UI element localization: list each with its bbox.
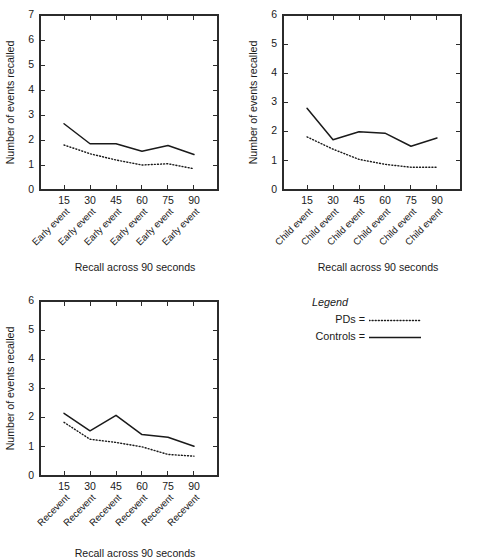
- plot-frame: [40, 15, 218, 190]
- y-axis-title: Number of events recalled: [4, 327, 16, 451]
- y-tick-label: 3: [271, 95, 277, 107]
- series-line-controls: [64, 413, 194, 446]
- series-line-controls: [64, 124, 194, 155]
- x-tick-label: 90: [431, 194, 443, 206]
- chart-panel-early-event: 0123456715Early event30Early event45Earl…: [0, 0, 246, 280]
- x-tick-label: 15: [58, 194, 70, 206]
- x-tick-label: 60: [136, 480, 148, 492]
- x-tick-label: 45: [110, 480, 122, 492]
- x-tick-label: 75: [405, 194, 417, 206]
- y-tick-label: 5: [271, 37, 277, 49]
- x-tick-label: 60: [136, 194, 148, 206]
- x-tick-label: 75: [162, 480, 174, 492]
- chart-panel-child-event: 012345615Child event30Child event45Child…: [243, 0, 493, 280]
- y-tick-label: 4: [28, 352, 34, 364]
- legend-swatch-solid: [369, 336, 421, 338]
- y-tick-label: 4: [28, 83, 34, 95]
- y-tick-label: 0: [28, 183, 34, 195]
- y-tick-label: 0: [28, 469, 34, 481]
- chart-panel-recevent: 012345615Recevent30Recevent45Recevent60R…: [0, 286, 246, 560]
- y-tick-label: 2: [271, 124, 277, 136]
- y-tick-label: 0: [271, 183, 277, 195]
- legend-entry-controls-label: Controls =: [315, 330, 365, 342]
- y-tick-label: 5: [28, 58, 34, 70]
- y-tick-label: 5: [28, 323, 34, 335]
- legend-entry-controls: Controls =: [283, 330, 473, 344]
- x-axis-title: Recall across 90 seconds: [75, 261, 196, 273]
- line-chart-child-event: 012345615Child event30Child event45Child…: [243, 0, 493, 280]
- x-tick-label: 75: [162, 194, 174, 206]
- legend-title: Legend: [312, 296, 348, 308]
- x-tick-label: 90: [188, 194, 200, 206]
- y-tick-label: 4: [271, 66, 277, 78]
- x-tick-label: 90: [188, 480, 200, 492]
- y-axis-title: Number of events recalled: [247, 41, 259, 165]
- y-tick-label: 6: [28, 33, 34, 45]
- y-tick-label: 7: [28, 8, 34, 20]
- y-tick-label: 3: [28, 108, 34, 120]
- y-tick-label: 1: [28, 440, 34, 452]
- y-tick-label: 2: [28, 133, 34, 145]
- x-tick-label: 15: [58, 480, 70, 492]
- x-tick-label: 45: [110, 194, 122, 206]
- series-line-pds: [64, 145, 194, 169]
- x-tick-label: 30: [84, 480, 96, 492]
- line-chart-recevent: 012345615Recevent30Recevent45Recevent60R…: [0, 286, 246, 560]
- y-tick-label: 2: [28, 410, 34, 422]
- x-tick-label: 30: [327, 194, 339, 206]
- y-tick-label: 1: [28, 158, 34, 170]
- legend: Legend PDs = Controls =: [283, 296, 473, 356]
- x-tick-label: 15: [301, 194, 313, 206]
- x-tick-label: 30: [84, 194, 96, 206]
- legend-swatch-dotted: [369, 319, 421, 321]
- plot-frame: [40, 301, 218, 476]
- legend-entry-pds: PDs =: [283, 313, 473, 327]
- y-axis-title: Number of events recalled: [4, 41, 16, 165]
- line-chart-early-event: 0123456715Early event30Early event45Earl…: [0, 0, 246, 280]
- legend-entry-pds-label: PDs =: [335, 313, 365, 325]
- series-line-pds: [307, 137, 437, 167]
- y-tick-label: 3: [28, 381, 34, 393]
- y-tick-label: 6: [28, 294, 34, 306]
- plot-frame: [283, 15, 461, 190]
- y-tick-label: 6: [271, 8, 277, 20]
- y-tick-label: 1: [271, 154, 277, 166]
- series-line-controls: [307, 108, 437, 146]
- x-tick-label: 60: [379, 194, 391, 206]
- x-axis-title: Recall across 90 seconds: [75, 547, 196, 559]
- x-tick-label: 45: [353, 194, 365, 206]
- x-axis-title: Recall across 90 seconds: [318, 261, 439, 273]
